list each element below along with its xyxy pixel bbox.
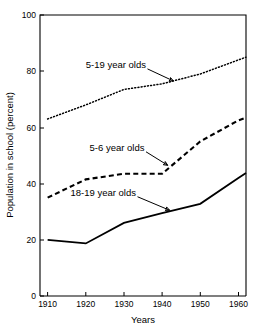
x-tick-label-1940: 1940 bbox=[153, 299, 172, 309]
x-tick-label-1920: 1920 bbox=[76, 299, 95, 309]
x-tick-label-1960: 1960 bbox=[229, 299, 248, 309]
y-tick-label-100: 100 bbox=[22, 10, 36, 20]
x-tick-label-1950: 1950 bbox=[191, 299, 210, 309]
x-axis-title: Years bbox=[131, 314, 155, 325]
y-tick-label-80: 80 bbox=[27, 66, 37, 76]
series-annotation-18-19-year-olds: 18-19 year olds bbox=[71, 187, 137, 198]
x-tick-label-1910: 1910 bbox=[38, 299, 57, 309]
y-tick-label-60: 60 bbox=[27, 123, 37, 133]
series-annotation-5-6-year-olds: 5-6 year olds bbox=[90, 142, 145, 153]
series-annotation-5-19-year-olds: 5-19 year olds bbox=[86, 59, 146, 70]
line-chart: 0 20 40 60 80 100 1910 1920 1930 1940 19… bbox=[0, 0, 254, 329]
x-tick-label-1930: 1930 bbox=[115, 299, 134, 309]
chart-figure: 0 20 40 60 80 100 1910 1920 1930 1940 19… bbox=[0, 0, 254, 329]
y-tick-label-0: 0 bbox=[31, 291, 36, 301]
y-tick-label-20: 20 bbox=[27, 235, 37, 245]
y-tick-label-40: 40 bbox=[27, 179, 37, 189]
y-axis-title: Population in school (percent) bbox=[4, 92, 15, 218]
chart-background bbox=[0, 0, 254, 329]
